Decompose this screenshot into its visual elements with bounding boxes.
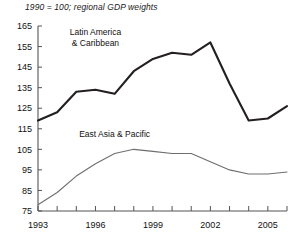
- y-tick-label: 75: [22, 206, 32, 216]
- y-tick-label: 125: [17, 103, 32, 113]
- y-tick-label: 165: [17, 21, 32, 31]
- chart-container: 1990 = 100; regional GDP weights 7585951…: [0, 0, 294, 244]
- series-line-east-asia-pacific: [38, 149, 287, 205]
- y-axis-tick-labels: 758595105115125135145155165: [17, 21, 32, 216]
- series-line-latin-america-caribbean: [38, 42, 287, 120]
- y-tick-label: 155: [17, 42, 32, 52]
- y-tick-label: 135: [17, 83, 32, 93]
- series-label-latin-america-line2: & Caribbean: [72, 38, 120, 48]
- y-tick-label: 115: [18, 124, 32, 134]
- series-label-east-asia-pacific: East Asia & Pacific: [79, 129, 151, 139]
- chart-plot-area: 758595105115125135145155165 199319961999…: [0, 0, 294, 244]
- x-tick-label: 1993: [28, 220, 48, 230]
- x-tick-label: 1999: [143, 220, 163, 230]
- x-tick-label: 2005: [258, 220, 278, 230]
- x-axis-tick-labels: 19931996199920022005: [28, 220, 278, 230]
- x-tick-label: 1996: [85, 220, 105, 230]
- y-tick-label: 95: [22, 165, 32, 175]
- y-tick-label: 85: [22, 186, 32, 196]
- y-tick-label: 145: [17, 62, 32, 72]
- x-axis-tick-marks: [38, 206, 287, 211]
- x-tick-label: 2002: [200, 220, 220, 230]
- series-label-latin-america-line1: Latin America: [70, 27, 122, 37]
- y-tick-label: 105: [17, 145, 32, 155]
